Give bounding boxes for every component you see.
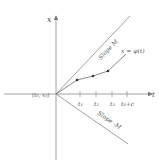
x-axis-label: x bbox=[47, 15, 52, 24]
origin-label: (t₀, x₀) bbox=[32, 92, 50, 98]
polygon-vertex bbox=[92, 75, 95, 78]
tick-label-t0c: t₀+c bbox=[121, 100, 135, 107]
curve-label: x = φ(t) bbox=[121, 47, 145, 55]
t-axis-label: t bbox=[152, 91, 155, 99]
slope-neg-m-label: Slope -M bbox=[96, 109, 123, 132]
tick-label-t3: t₃ bbox=[110, 100, 115, 107]
tick-label-t1: t₁ bbox=[78, 100, 83, 107]
euler-polygon-diagram: x t (t₀, x₀) t₁ t₂ t₃ t₀+c x = φ(t) Slop… bbox=[0, 0, 159, 167]
polygon-vertex bbox=[107, 70, 110, 73]
polygon-vertex bbox=[76, 79, 79, 82]
slope-m-label: Slope M bbox=[97, 37, 121, 61]
tick-label-t2: t₂ bbox=[94, 100, 99, 107]
slope-neg-m-line bbox=[56, 94, 128, 144]
euler-polyline bbox=[56, 54, 126, 94]
slope-m-line bbox=[56, 16, 130, 94]
